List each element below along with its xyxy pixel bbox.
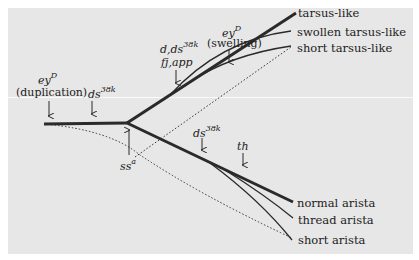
label-thread-arista: thread arista	[298, 214, 374, 226]
note-swelling: (swelling)	[207, 38, 262, 50]
gene-eyD-duplication: eyD	[38, 71, 57, 87]
note-duplication: (duplication)	[16, 87, 87, 99]
gene-ds38k-early: ds38k	[88, 85, 116, 101]
gene-ss-a: ssa	[120, 157, 136, 173]
gene-d-ds38k: d,ds38k	[160, 40, 198, 56]
thread-arista-branch	[225, 170, 293, 218]
label-short-tarsus-like: short tarsus-like	[297, 42, 392, 54]
label-swollen-tarsus-like: swollen tarsus-like	[297, 26, 406, 38]
label-normal-arista: normal arista	[297, 197, 375, 209]
short-arista-branch	[210, 163, 292, 240]
label-short-arista: short arista	[298, 234, 365, 246]
stem-line	[44, 123, 127, 124]
gene-ds38k-lower: ds38k	[193, 124, 221, 140]
tarsus-like-branch	[127, 13, 296, 123]
gene-fj-app: fj,app	[161, 57, 193, 69]
gene-th: th	[237, 141, 249, 153]
label-tarsus-like: tarsus-like	[298, 7, 359, 19]
